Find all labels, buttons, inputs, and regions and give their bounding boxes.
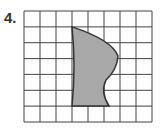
- grid-diagram: [0, 0, 161, 128]
- shaded-shape: [72, 27, 118, 106]
